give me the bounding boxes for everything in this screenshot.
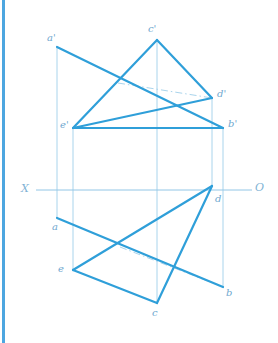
front-view-c-prime-to-d-prime (157, 40, 212, 98)
point-label-c-prime: c' (148, 24, 156, 34)
point-label-d-prime: d' (217, 89, 226, 99)
drawing-canvas: a'c'd'b'e'adecbXO (0, 0, 278, 343)
projection-drawing-svg (0, 0, 278, 343)
point-label-a-prime: a' (47, 33, 56, 43)
axis-label-o: O (255, 182, 264, 193)
point-label-c: c (152, 308, 158, 318)
point-label-a: a (52, 222, 58, 232)
point-label-b: b (226, 288, 232, 298)
point-label-b-prime: b' (228, 119, 237, 129)
top-view-e-to-c (73, 270, 157, 303)
axis-label-x: X (21, 183, 29, 194)
point-label-e: e (58, 264, 64, 274)
front-view-c-prime-to-e-prime (73, 40, 157, 128)
point-label-d: d (215, 194, 221, 204)
point-label-e-prime: e' (60, 120, 69, 130)
solid-edge-group (57, 40, 223, 303)
hidden-edge-group (118, 83, 223, 287)
front-view-hidden-e-prime-d-prime (118, 83, 212, 98)
